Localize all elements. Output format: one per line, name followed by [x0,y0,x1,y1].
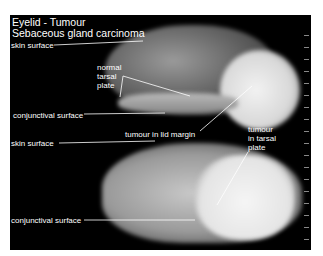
specimen-photograph: Eyelid - Tumour Sebaceous gland carcinom… [10,15,311,250]
measurement-scale [301,35,309,245]
pointer-lines [10,15,311,250]
